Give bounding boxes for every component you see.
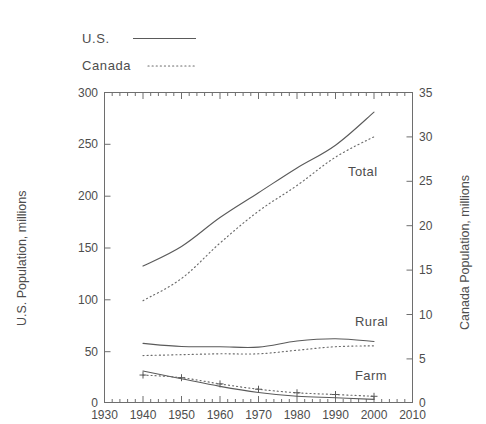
y2-tick-label-5: 5 <box>419 352 426 366</box>
rural-label: Rural <box>355 314 388 329</box>
x-tick-label-1980: 1980 <box>284 408 311 422</box>
population-chart-figure: U.S. Canada U.S. Population, millions <box>0 0 486 424</box>
y2-tick-label-30: 30 <box>419 130 433 144</box>
plot-frame <box>105 92 413 403</box>
series-annotations: Total Rural Farm <box>348 164 388 383</box>
y2-tick-label-35: 35 <box>419 86 433 100</box>
x-tick-label-2010: 2010 <box>399 408 426 422</box>
chart-legend: U.S. Canada <box>82 31 196 73</box>
data-series-group <box>140 112 378 400</box>
plus-marker <box>178 374 185 381</box>
x-tick-label-1990: 1990 <box>322 408 349 422</box>
y-tick-label-150: 150 <box>78 241 98 255</box>
y-axis-left: U.S. Population, millions 300 250 200 15… <box>15 86 111 410</box>
y-tick-label-300: 300 <box>78 86 98 100</box>
y2-tick-label-15: 15 <box>419 263 433 277</box>
legend-label-us: U.S. <box>82 31 110 46</box>
y2-tick-label-10: 10 <box>419 308 433 322</box>
y2-tick-label-25: 25 <box>419 174 433 188</box>
series-line-canada-total <box>143 137 374 301</box>
x-tick-label-2000: 2000 <box>361 408 388 422</box>
series-line-u-s-total <box>143 112 374 266</box>
y-axis-right-title: Canada Population, millions <box>458 175 472 330</box>
x-tick-label-1950: 1950 <box>168 408 195 422</box>
legend-label-canada: Canada <box>82 58 131 73</box>
y-axis-left-ticks <box>105 93 111 403</box>
chart-svg: U.S. Canada U.S. Population, millions <box>0 0 486 424</box>
x-axis-major-ticks-top <box>143 93 374 100</box>
y-tick-label-250: 250 <box>78 137 98 151</box>
y-tick-label-200: 200 <box>78 189 98 203</box>
total-label: Total <box>348 164 377 179</box>
x-tick-label-1930: 1930 <box>91 408 118 422</box>
plus-marker <box>332 391 339 398</box>
y-tick-label-100: 100 <box>78 293 98 307</box>
y-axis-left-title: U.S. Population, millions <box>15 191 29 326</box>
y-axis-right-ticks <box>407 93 413 403</box>
farm-label: Farm <box>355 368 387 383</box>
plus-marker <box>140 372 147 379</box>
x-tick-label-1960: 1960 <box>207 408 234 422</box>
plus-marker <box>294 389 301 396</box>
x-tick-label-1940: 1940 <box>130 408 157 422</box>
y-tick-label-50: 50 <box>85 345 99 359</box>
x-tick-label-1970: 1970 <box>245 408 272 422</box>
y2-tick-label-20: 20 <box>419 219 433 233</box>
y-axis-right: Canada Population, millions 35 30 25 20 … <box>407 86 473 410</box>
